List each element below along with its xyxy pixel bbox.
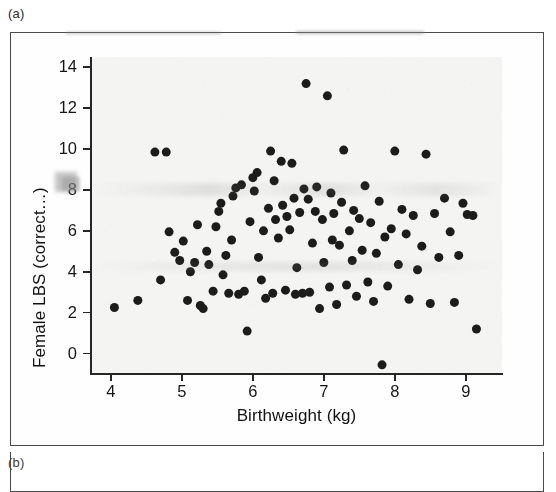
x-tick-label-4: 4 <box>98 383 124 400</box>
y-tick-2 <box>83 312 90 314</box>
x-tick-6 <box>252 374 254 381</box>
scatter-points-canvas <box>91 57 502 373</box>
y-tick-12 <box>83 107 90 109</box>
y-tick-8 <box>83 189 90 191</box>
x-axis-line <box>90 373 503 375</box>
y-tick-label-8: 8 <box>49 181 77 198</box>
x-tick-label-8: 8 <box>382 383 408 400</box>
x-tick-label-7: 7 <box>311 383 337 400</box>
x-tick-label-5: 5 <box>169 383 195 400</box>
x-tick-label-9: 9 <box>453 383 479 400</box>
x-tick-4 <box>110 374 112 381</box>
y-tick-6 <box>83 230 90 232</box>
x-tick-7 <box>323 374 325 381</box>
x-axis-title: Birthweight (kg) <box>91 406 502 426</box>
y-tick-label-10: 10 <box>49 140 77 157</box>
y-axis-line <box>90 57 92 374</box>
scatter-plot-area <box>91 57 502 373</box>
y-tick-10 <box>83 148 90 150</box>
y-tick-label-2: 2 <box>49 304 77 321</box>
x-tick-9 <box>465 374 467 381</box>
y-tick-label-4: 4 <box>49 263 77 280</box>
y-tick-label-0: 0 <box>49 345 77 362</box>
y-tick-label-12: 12 <box>49 99 77 116</box>
y-tick-0 <box>83 353 90 355</box>
y-tick-14 <box>83 66 90 68</box>
y-axis-title: Female LBS (correct…) <box>30 187 50 368</box>
x-tick-label-6: 6 <box>240 383 266 400</box>
panel-letter-a: (a) <box>8 6 25 21</box>
figure-frame-b <box>10 452 544 492</box>
y-tick-label-6: 6 <box>49 222 77 239</box>
x-tick-5 <box>181 374 183 381</box>
x-tick-8 <box>394 374 396 381</box>
y-tick-label-14: 14 <box>49 58 77 75</box>
panel-letter-b: (b) <box>8 455 25 470</box>
y-tick-4 <box>83 271 90 273</box>
